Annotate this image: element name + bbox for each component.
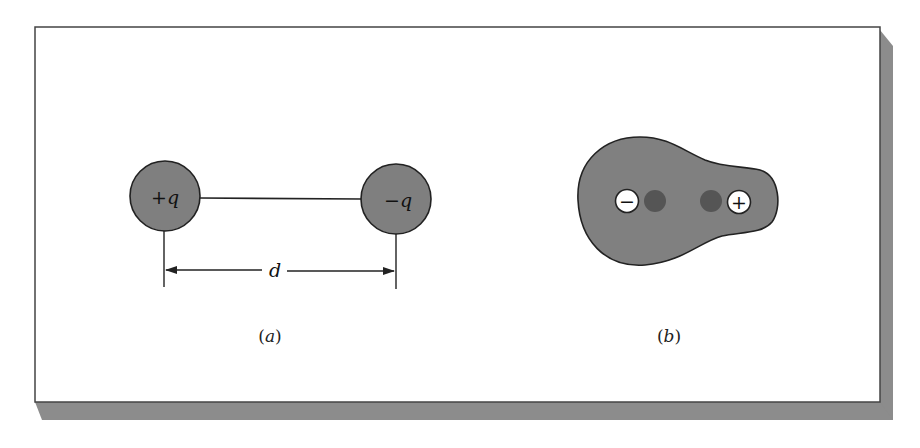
nucleus-right — [700, 190, 722, 212]
nucleus-left — [644, 190, 666, 212]
panel-b-caption: (b) — [657, 326, 681, 346]
positive-charge-label: +q — [151, 186, 179, 208]
dipole-figure: +q −q d (a) − + (b) — [0, 0, 920, 448]
panel-a-caption: (a) — [258, 326, 281, 346]
distance-label: d — [269, 259, 281, 281]
negative-charge-label: −q — [384, 189, 412, 211]
dipole-rod — [200, 198, 362, 199]
positive-ion-sign: + — [731, 191, 747, 213]
negative-ion-sign: − — [619, 190, 635, 212]
